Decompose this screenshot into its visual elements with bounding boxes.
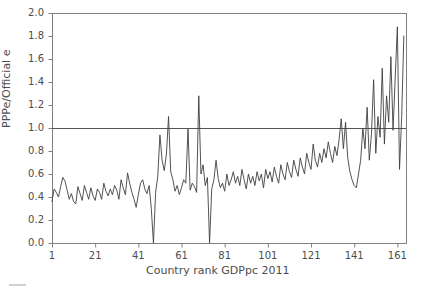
chart-figure: PPPe/Official e Country rank GDPpc 2011 … (0, 0, 424, 294)
x-tick-label: 141 (339, 250, 369, 261)
x-tick-label: 1 (37, 250, 67, 261)
data-series-group (52, 27, 404, 243)
y-tick-label: 1.8 (18, 30, 44, 41)
y-tick-label: 0.4 (18, 191, 44, 202)
y-axis-label: PPPe/Official e (0, 50, 13, 128)
y-tick-label: 0.0 (18, 237, 44, 248)
y-tick-label: 1.0 (18, 122, 44, 133)
x-axis-label: Country rank GDPpc 2011 (146, 264, 289, 277)
corner-mark (9, 284, 26, 286)
x-tick-label: 41 (123, 250, 153, 261)
x-tick-label: 161 (382, 250, 412, 261)
y-tick-label: 1.6 (18, 53, 44, 64)
x-tick-label: 21 (80, 250, 110, 261)
x-tick-label: 101 (253, 250, 283, 261)
x-tick-label: 121 (296, 250, 326, 261)
x-tick-label: 61 (167, 250, 197, 261)
y-tick-label: 0.8 (18, 145, 44, 156)
x-tick-label: 81 (210, 250, 240, 261)
y-tick-label: 0.2 (18, 214, 44, 225)
y-tick-label: 1.4 (18, 76, 44, 87)
y-tick-label: 2.0 (18, 7, 44, 18)
tick-marks (49, 14, 398, 248)
y-tick-label: 0.6 (18, 168, 44, 179)
y-tick-label: 1.2 (18, 99, 44, 110)
data-series-line (52, 27, 404, 243)
